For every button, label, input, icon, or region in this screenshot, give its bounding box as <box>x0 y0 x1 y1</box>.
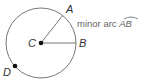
label-a: A <box>65 3 73 15</box>
center-point <box>39 41 44 46</box>
point-d <box>13 64 18 69</box>
circle-diagram: A B C D minor arc AB <box>0 0 141 83</box>
label-d: D <box>3 66 11 78</box>
label-c: C <box>28 37 36 49</box>
minor-arc-caption: minor arc AB <box>77 18 133 29</box>
radius-ca <box>41 15 63 43</box>
arc-name: AB <box>118 18 132 29</box>
label-b: B <box>79 37 86 49</box>
